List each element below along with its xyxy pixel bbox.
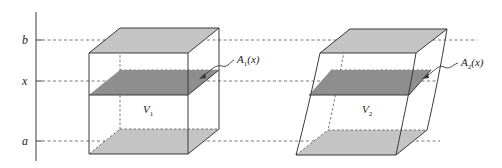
diagram-canvas: b x a V1 — [0, 0, 502, 168]
solid-1-bottom-face — [89, 129, 219, 154]
solid-2-top-face — [320, 29, 447, 53]
solid-1-volume-label: V1 — [143, 103, 154, 118]
solid-2-volume-label: V2 — [362, 103, 373, 118]
solid-1-cross-section — [89, 70, 219, 95]
solid-1-top-face — [89, 28, 219, 53]
solid-1-area-label: A1(x) — [236, 53, 260, 68]
axis-label-a: a — [22, 134, 28, 148]
solid-2-area-label: A2(x) — [460, 56, 484, 71]
axis-label-b: b — [22, 33, 28, 47]
solid-2-bottom-face — [296, 130, 427, 155]
solid-2: V2 A2(x) — [296, 29, 484, 155]
axis-label-x: x — [21, 74, 28, 88]
solid-1: V1 A1(x) — [89, 28, 260, 154]
